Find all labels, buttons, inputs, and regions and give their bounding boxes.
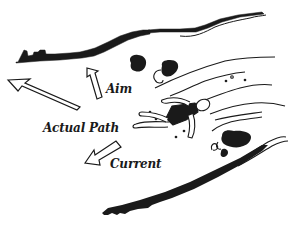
- current-label: Current: [110, 157, 161, 171]
- actual-path-arrow: [8, 79, 80, 110]
- illustration: [0, 0, 298, 228]
- bottom-bank: [102, 145, 268, 215]
- aim-arrow: [87, 68, 102, 99]
- aim-label: Aim: [106, 82, 132, 96]
- arrows: [8, 68, 121, 165]
- diagram-canvas: Aim Actual Path Current: [0, 0, 298, 228]
- swimmer: [133, 97, 212, 138]
- actual-path-label: Actual Path: [43, 121, 119, 135]
